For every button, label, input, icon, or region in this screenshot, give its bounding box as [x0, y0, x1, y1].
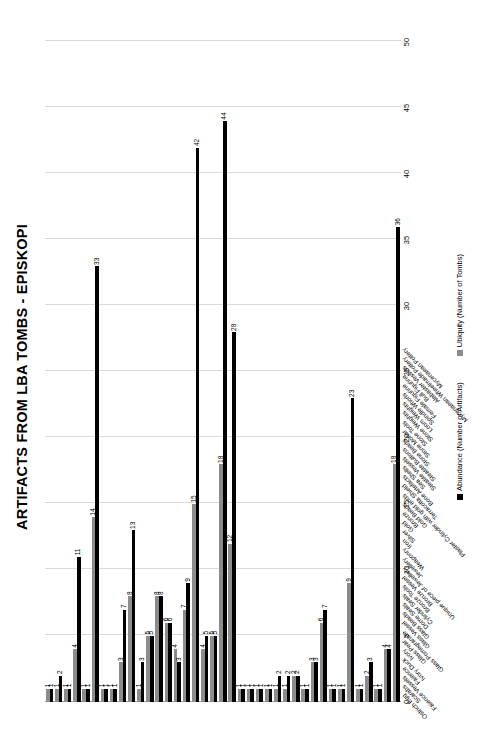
bar-group: 11: [264, 42, 273, 702]
bar-group: 1433: [91, 42, 100, 702]
bar-group: 1836: [392, 42, 401, 702]
axis-tick-label: 50: [403, 38, 411, 46]
bar-group: 11: [301, 42, 310, 702]
legend-label-abundance: Abundance (Number of Artifacts): [455, 382, 464, 491]
bar-abundance: 2: [296, 42, 300, 702]
legend-swatch-abundance: [457, 494, 463, 500]
bar-abundance: 9: [186, 42, 190, 702]
bar-rect-abundance: [369, 662, 373, 702]
bar-group: 45: [200, 42, 209, 702]
bar-abundance: 1: [104, 42, 108, 702]
bar-group: 813: [127, 42, 136, 702]
bar-abundance: 1: [259, 42, 263, 702]
bar-abundance: 1: [360, 42, 364, 702]
legend-label-ubiquity: Ubiquity (Number of Tombs): [455, 254, 464, 347]
bar-rect-abundance: [342, 689, 346, 702]
bar-group: 23: [364, 42, 373, 702]
axis-tick-label: 20: [403, 434, 411, 442]
bar-rect-abundance: [396, 227, 400, 702]
bar-group: 55: [145, 42, 154, 702]
bar-group: 11: [63, 42, 72, 702]
bar-rect-abundance: [387, 649, 391, 702]
bar-abundance: 13: [132, 42, 136, 702]
bar-abundance: 33: [95, 42, 99, 702]
bar-group: 11: [374, 42, 383, 702]
bar-abundance: 5: [214, 42, 218, 702]
bar-group: 37: [118, 42, 127, 702]
bar-group: 11: [337, 42, 346, 702]
axis-tick-label: 40: [403, 170, 411, 178]
bar-group: 11: [355, 42, 364, 702]
chart-title: ARTIFACTS FROM LBA TOMBS - EPISKOPI: [14, 0, 30, 754]
bar-abundance: 1: [68, 42, 72, 702]
bar-rect-abundance: [186, 583, 190, 702]
bar-rect-abundance: [50, 689, 54, 702]
rotated-figure-wrapper: ARTIFACTS FROM LBA TOMBS - EPISKOPI 1112…: [0, 0, 490, 754]
bar-abundance: 1: [86, 42, 90, 702]
bar-group: 11: [246, 42, 255, 702]
plot-area: 1112114111114331111378131355886643791542…: [45, 42, 401, 702]
bar-group: 12: [54, 42, 63, 702]
bar-rect-abundance: [296, 676, 300, 702]
bar-group: 43: [173, 42, 182, 702]
bar-group: 44: [383, 42, 392, 702]
value-axis: 05101520253035404550: [401, 42, 423, 702]
bar-rect-abundance: [159, 596, 163, 702]
bar-group: 13: [136, 42, 145, 702]
bar-abundance: 3: [177, 42, 181, 702]
bar-group: 22: [291, 42, 300, 702]
bar-rect-abundance: [168, 623, 172, 702]
bar-rect-abundance: [232, 332, 236, 702]
bar-abundance: 2: [278, 42, 282, 702]
bar-group: 1542: [191, 42, 200, 702]
bar-rect-abundance: [250, 689, 254, 702]
bar-rect-abundance: [305, 689, 309, 702]
page-canvas: ARTIFACTS FROM LBA TOMBS - EPISKOPI 1112…: [0, 0, 490, 754]
bar-rect-abundance: [68, 689, 72, 702]
bar-abundance: 1: [378, 42, 382, 702]
bar-abundance: 1: [332, 42, 336, 702]
bar-rect-abundance: [205, 636, 209, 702]
bar-group: 411: [72, 42, 81, 702]
bar-group: 88: [155, 42, 164, 702]
bar-rect-abundance: [95, 266, 99, 702]
bar-rect-abundance: [196, 148, 200, 702]
bar-rect-abundance: [259, 689, 263, 702]
chart-legend: Abundance (Number of Artifacts) Ubiquity…: [455, 0, 464, 754]
bar-rect-abundance: [278, 676, 282, 702]
bar-abundance: 2: [59, 42, 63, 702]
axis-tick-label: 25: [403, 368, 411, 376]
bar-abundance: 42: [196, 42, 200, 702]
legend-item-abundance: Abundance (Number of Artifacts): [455, 382, 464, 500]
bar-abundance: 28: [232, 42, 236, 702]
bar-abundance: 23: [351, 42, 355, 702]
axis-tick-label: 15: [403, 500, 411, 508]
bar-abundance: 7: [323, 42, 327, 702]
legend-swatch-ubiquity: [457, 350, 463, 356]
bar-rect-abundance: [241, 689, 245, 702]
bar-rect-abundance: [177, 662, 181, 702]
bar-rect-abundance: [314, 662, 318, 702]
axis-tick-label: 5: [403, 634, 411, 638]
bar-abundance: 4: [387, 42, 391, 702]
bar-abundance: 1: [241, 42, 245, 702]
chart-figure: ARTIFACTS FROM LBA TOMBS - EPISKOPI 1112…: [0, 0, 490, 754]
bar-group: 33: [310, 42, 319, 702]
axis-tick-label: 0: [403, 700, 411, 704]
bar-group: 11: [328, 42, 337, 702]
bar-group: 11: [237, 42, 246, 702]
bar-rect-abundance: [351, 398, 355, 702]
bar-rect-abundance: [214, 636, 218, 702]
axis-tick-label: 35: [403, 236, 411, 244]
bar-group: 67: [319, 42, 328, 702]
bar-group: 923: [346, 42, 355, 702]
bar-abundance: 3: [369, 42, 373, 702]
bar-abundance: 1: [50, 42, 54, 702]
bar-abundance: 36: [396, 42, 400, 702]
bar-abundance: 5: [150, 42, 154, 702]
bar-group: 12: [282, 42, 291, 702]
bar-rect-abundance: [132, 530, 136, 702]
bar-rect-abundance: [323, 610, 327, 702]
gridline: [45, 40, 401, 41]
bar-abundance: 1: [113, 42, 117, 702]
